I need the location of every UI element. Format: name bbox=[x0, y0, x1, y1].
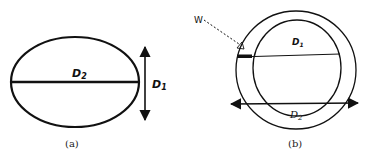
inner-ellipse bbox=[253, 20, 341, 116]
horizontal-double-arrow bbox=[231, 103, 358, 104]
diagram-canvas: D2 D1 (a) W D1 D2 (b) bbox=[0, 0, 366, 159]
d2-label-b: D2 bbox=[289, 109, 303, 122]
d1-label: D1 bbox=[152, 78, 167, 92]
inner-diameter-line bbox=[237, 54, 340, 57]
figure-a: D2 D1 (a) bbox=[11, 37, 167, 149]
d2-label: D2 bbox=[72, 67, 87, 81]
w-pointer-dashed-line bbox=[204, 20, 239, 44]
figure-b: W D1 D2 (b) bbox=[194, 11, 358, 149]
caption-a: (a) bbox=[65, 138, 79, 149]
w-label: W bbox=[194, 15, 203, 25]
wall-thickness-marker bbox=[237, 55, 252, 59]
inner-d1-label: D1 bbox=[292, 37, 304, 48]
caption-b: (b) bbox=[288, 138, 302, 149]
